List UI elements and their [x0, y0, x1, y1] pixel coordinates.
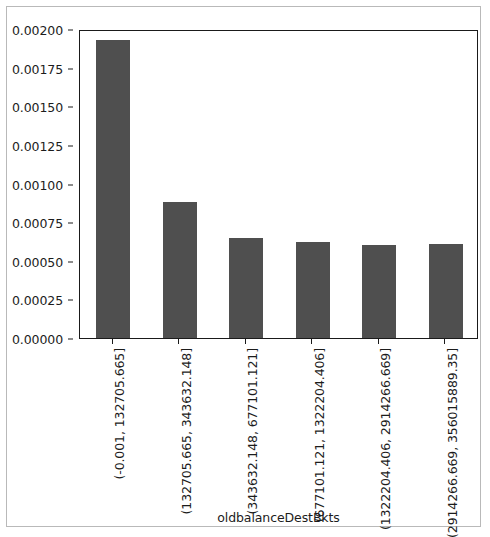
y-tick-mark — [68, 184, 73, 185]
x-tick-label: (1322204.406, 2914266.669] — [378, 166, 393, 348]
x-tick-label: (-0.001, 132705.665] — [112, 216, 127, 348]
y-tick-mark — [68, 107, 73, 108]
x-axis-title: oldbalanceDestBkts — [79, 510, 478, 525]
y-tick-label: 0.00025 — [12, 293, 63, 308]
y-tick-mark — [68, 68, 73, 69]
x-tick-label-text: (1322204.406, 2914266.669] — [378, 348, 393, 530]
y-tick-label: 0.00200 — [12, 23, 63, 38]
y-tick-mark — [68, 223, 73, 224]
y-tick-mark — [68, 339, 73, 340]
y-tick-mark — [68, 300, 73, 301]
x-axis: (-0.001, 132705.665](132705.665, 343632.… — [79, 340, 478, 500]
x-tick-label-text: (132705.665, 343632.148] — [179, 348, 194, 514]
figure-frame: 0.000000.000250.000500.000750.001000.001… — [6, 6, 481, 527]
y-tick-label: 0.00050 — [12, 254, 63, 269]
x-tick-label: (343632.148, 677101.121] — [245, 182, 260, 348]
y-tick-mark — [68, 261, 73, 262]
y-tick-label: 0.00075 — [12, 216, 63, 231]
x-tick-label-text: (2914266.669, 356015889.35] — [445, 348, 460, 537]
y-tick-label: 0.00125 — [12, 138, 63, 153]
plot-area — [79, 30, 478, 339]
y-axis: 0.000000.000250.000500.000750.001000.001… — [7, 30, 73, 339]
x-tick-label: (132705.665, 343632.148] — [179, 182, 194, 348]
y-tick-label: 0.00150 — [12, 100, 63, 115]
y-tick-mark — [68, 145, 73, 146]
x-tick-label: (2914266.669, 356015889.35] — [445, 158, 460, 348]
y-tick-label: 0.00000 — [12, 332, 63, 347]
x-tick-label-text: (-0.001, 132705.665] — [112, 348, 127, 480]
x-tick-label-text: (677101.121, 1322204.406] — [312, 348, 327, 522]
y-tick-mark — [68, 30, 73, 31]
x-tick-label: (677101.121, 1322204.406] — [312, 174, 327, 348]
y-tick-label: 0.00100 — [12, 177, 63, 192]
x-tick-label-text: (343632.148, 677101.121] — [245, 348, 260, 514]
y-tick-label: 0.00175 — [12, 61, 63, 76]
